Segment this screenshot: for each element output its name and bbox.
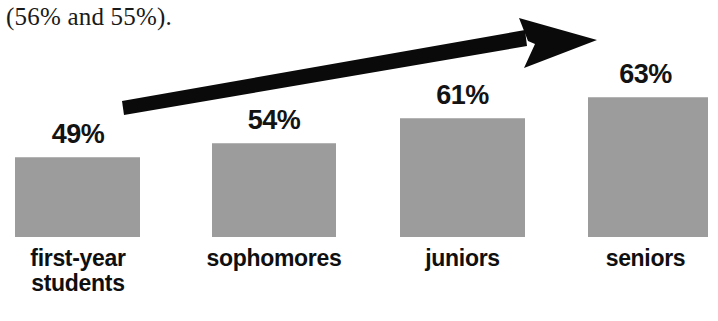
bar-value-label-1: 49% [8, 121, 148, 148]
bar-category-label-1-line2: students [8, 271, 148, 296]
bar-category-label-2-line1: sophomores [193, 246, 355, 271]
chart-figure: (56% and 55%). 49% first-year students 5… [0, 0, 718, 321]
bar-rect-4 [588, 97, 708, 237]
bar-group-seniors: 63% seniors [573, 0, 718, 321]
bar-category-label-3-line1: juniors [385, 246, 540, 271]
bar-rect-3 [400, 118, 525, 237]
bar-rect-1 [15, 157, 140, 237]
bar-category-label-1-line1: first-year [8, 246, 148, 271]
bar-category-label-2: sophomores [193, 246, 355, 271]
bar-rect-2 [212, 143, 336, 237]
bar-category-label-3: juniors [385, 246, 540, 271]
bar-value-label-2: 54% [193, 107, 355, 134]
bar-value-label-3: 61% [385, 82, 540, 109]
bar-category-label-1: first-year students [8, 246, 148, 296]
bar-category-label-4: seniors [573, 246, 718, 271]
bar-group-first-year-students: 49% first-year students [8, 0, 148, 321]
bar-value-label-4: 63% [573, 61, 718, 88]
bar-group-juniors: 61% juniors [385, 0, 540, 321]
bar-group-sophomores: 54% sophomores [193, 0, 355, 321]
bar-category-label-4-line1: seniors [573, 246, 718, 271]
